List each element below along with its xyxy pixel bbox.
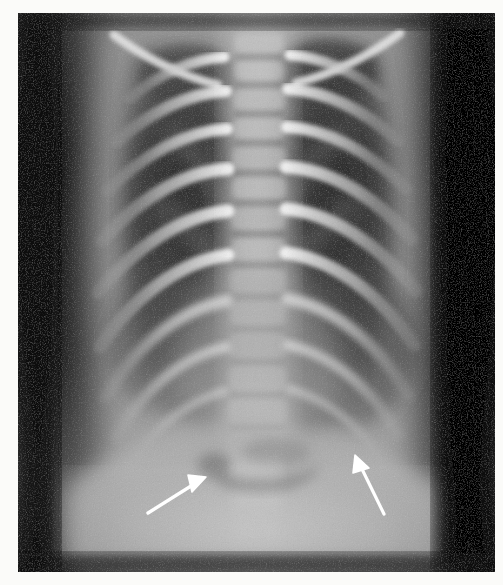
radiograph-plate — [18, 13, 495, 572]
radiograph-image — [18, 13, 495, 572]
exposure-gradient — [18, 13, 495, 572]
radiograph-page — [0, 0, 503, 585]
